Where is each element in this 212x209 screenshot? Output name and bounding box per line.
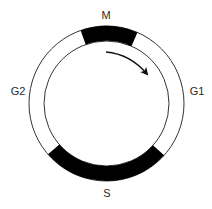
cell-cycle-diagram: M G1 S G2 [0, 0, 212, 209]
label-s: S [103, 187, 110, 199]
label-g1: G1 [190, 85, 205, 97]
label-m: M [101, 9, 110, 21]
inner-ring [44, 41, 169, 166]
label-g2: G2 [11, 85, 26, 97]
